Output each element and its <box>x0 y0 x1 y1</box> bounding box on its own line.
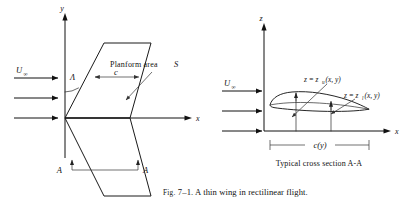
x-axis-label-right: x <box>394 127 399 136</box>
planform-upper-shape <box>65 43 151 118</box>
x-axis-arrowhead <box>185 115 193 120</box>
freestream-subscript-left: ∞ <box>24 71 28 77</box>
planform-area-leader <box>126 72 152 100</box>
cross-section-caption: Typical cross section A-A <box>276 159 363 168</box>
y-axis-label: y <box>59 4 64 13</box>
caption-body: A thin wing in rectilinear flight. <box>195 187 308 197</box>
freestream-label-left: U <box>16 65 23 75</box>
upper-surface-arguments: (x, y) <box>326 75 342 84</box>
chord-y-label: c(y) <box>313 140 326 150</box>
planform-area-symbol: S <box>174 59 179 69</box>
right-crosssection-group: z x U ∞ z = z u (x, y) z = z l (x, y) c(… <box>222 14 399 168</box>
caption-number: 7–1. <box>178 187 193 197</box>
z-axis-label: z <box>258 14 263 23</box>
y-axis-arrowhead <box>62 13 67 21</box>
section-marker-right: A <box>142 165 149 175</box>
planform-area-label: Planform area <box>110 60 158 69</box>
figure-drawing: y x U ∞ Λ c Planform area S A A <box>0 0 415 211</box>
lower-surface-arguments: (x, y) <box>365 91 381 100</box>
x-axis-arrowhead-right <box>384 128 392 133</box>
figure-caption: Fig. 7–1. A thin wing in rectilinear fli… <box>163 181 413 199</box>
lower-surface-equation: z = z <box>343 91 359 100</box>
freestream-subscript-right: ∞ <box>232 84 236 90</box>
caption-label: Fig. <box>163 189 176 197</box>
figure-container: y x U ∞ Λ c Planform area S A A <box>0 0 415 211</box>
sweep-angle-label: Λ <box>69 72 76 82</box>
planform-lower-shape <box>65 118 151 196</box>
sweep-angle-arc <box>65 88 79 92</box>
z-axis-arrowhead <box>261 23 266 31</box>
freestream-label-right: U <box>224 78 231 88</box>
section-marker-left: A <box>56 165 63 175</box>
left-planform-group: y x U ∞ Λ c Planform area S A A <box>14 4 200 196</box>
upper-surface-equation: z = z <box>303 75 319 84</box>
x-axis-label-left: x <box>195 114 200 123</box>
